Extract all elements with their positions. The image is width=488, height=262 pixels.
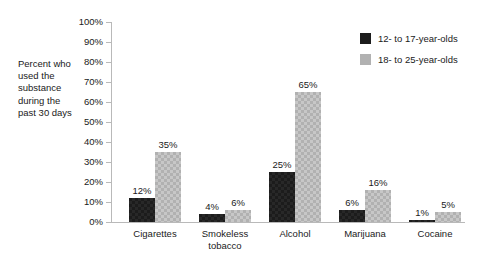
y-axis-caption: Percent who used the substance during th… [18, 58, 98, 119]
bar-chart: Percent who used the substance during th… [0, 0, 488, 262]
bar-value-label: 1% [415, 207, 429, 218]
legend-item[interactable]: 12- to 17-year-olds [360, 30, 458, 47]
y-tick-label: 50% [84, 117, 103, 127]
y-tick-label: 90% [84, 37, 103, 47]
bar[interactable]: 1% [409, 220, 435, 222]
bar-value-label: 12% [132, 185, 151, 196]
x-axis-line [111, 222, 465, 223]
bar[interactable]: 16% [365, 190, 391, 222]
y-tick-mark [106, 182, 111, 183]
y-tick-label: 100% [79, 17, 103, 27]
bar-group: 12%35% [129, 22, 181, 222]
bar[interactable]: 65% [295, 92, 321, 222]
bar-value-label: 4% [205, 201, 219, 212]
y-tick-mark [106, 42, 111, 43]
y-tick-mark [106, 62, 111, 63]
category-label: Cocaine [387, 228, 483, 240]
bar[interactable]: 5% [435, 212, 461, 222]
bar[interactable]: 12% [129, 198, 155, 222]
legend-swatch-icon [360, 54, 371, 65]
bar-value-label: 65% [298, 79, 317, 90]
y-tick-label: 30% [84, 157, 103, 167]
y-tick-mark [106, 202, 111, 203]
bar-group: 4%6% [199, 22, 251, 222]
bar[interactable]: 6% [339, 210, 365, 222]
y-tick-label: 10% [84, 197, 103, 207]
y-tick-label: 40% [84, 137, 103, 147]
legend: 12- to 17-year-olds18- to 25-year-olds [360, 30, 458, 72]
legend-swatch-icon [360, 33, 371, 44]
y-tick-label: 0% [89, 217, 103, 227]
y-tick-mark [106, 122, 111, 123]
legend-label: 18- to 25-year-olds [378, 54, 458, 65]
y-tick-label: 20% [84, 177, 103, 187]
bar-group: 25%65% [269, 22, 321, 222]
y-tick-mark [106, 102, 111, 103]
bar[interactable]: 4% [199, 214, 225, 222]
bar-value-label: 25% [272, 159, 291, 170]
legend-item[interactable]: 18- to 25-year-olds [360, 51, 458, 68]
y-tick-mark [106, 82, 111, 83]
y-tick-mark [106, 142, 111, 143]
bar[interactable]: 6% [225, 210, 251, 222]
bar-value-label: 5% [441, 199, 455, 210]
bar-value-label: 16% [368, 177, 387, 188]
y-tick-label: 80% [84, 57, 103, 67]
bar-value-label: 6% [345, 197, 359, 208]
bar-value-label: 35% [158, 139, 177, 150]
y-axis-line [111, 22, 112, 222]
legend-label: 12- to 17-year-olds [378, 33, 458, 44]
y-tick-label: 60% [84, 97, 103, 107]
bar-value-label: 6% [231, 197, 245, 208]
bar[interactable]: 35% [155, 152, 181, 222]
y-tick-mark [106, 22, 111, 23]
bar[interactable]: 25% [269, 172, 295, 222]
y-tick-label: 70% [84, 77, 103, 87]
y-tick-mark [106, 162, 111, 163]
y-tick-mark [106, 222, 111, 223]
